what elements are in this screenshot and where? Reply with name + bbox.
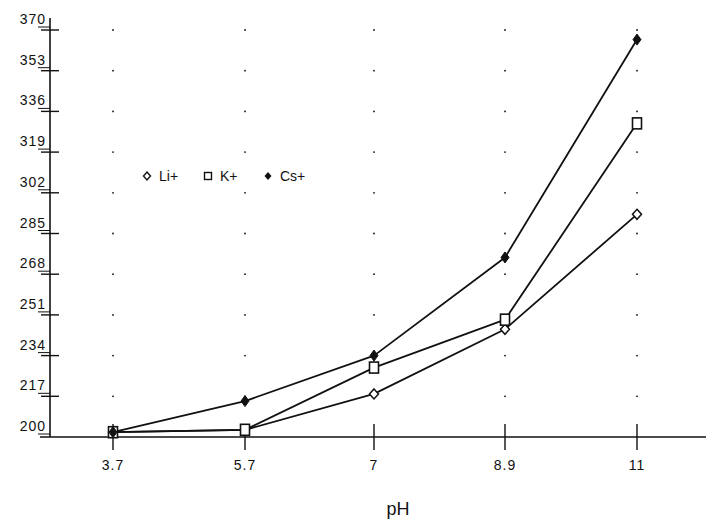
- grid-dot: [373, 151, 375, 153]
- grid-dot: [636, 111, 638, 113]
- legend-open-diamond-icon: [144, 172, 151, 180]
- grid-dot: [244, 355, 246, 357]
- grid-dot: [112, 111, 114, 113]
- legend-open-square-icon: [205, 173, 212, 180]
- grid-dot: [504, 111, 506, 113]
- grid-dot: [504, 192, 506, 194]
- y-tick-label: 268: [20, 255, 46, 271]
- grid-dot: [504, 151, 506, 153]
- grid-dot: [244, 273, 246, 275]
- y-tick-label: 319: [20, 133, 46, 149]
- grid-dot: [244, 151, 246, 153]
- marker-k-plus-icon: [241, 424, 250, 435]
- marker-k-plus-icon: [370, 362, 379, 373]
- grid-dot: [636, 192, 638, 194]
- grid-dots: [112, 29, 638, 397]
- y-tick-label: 302: [20, 174, 46, 190]
- grid-dot: [244, 29, 246, 31]
- grid-dot: [112, 29, 114, 31]
- y-tick-label: 336: [20, 92, 46, 108]
- y-tick-label: 200: [20, 418, 46, 434]
- legend-label: Li+: [159, 168, 178, 184]
- legend-item-cs-plus: Cs+: [265, 168, 306, 184]
- grid-dot: [112, 314, 114, 316]
- grid-dot: [636, 233, 638, 235]
- y-axis: 200217234251268285302319336353370: [20, 11, 59, 437]
- grid-dot: [636, 273, 638, 275]
- grid-dot: [244, 70, 246, 72]
- grid-dot: [373, 273, 375, 275]
- grid-dot: [244, 111, 246, 113]
- grid-dot: [112, 192, 114, 194]
- grid-dot: [373, 70, 375, 72]
- y-tick-label: 370: [20, 11, 46, 27]
- marker-cs-plus-icon: [370, 350, 378, 361]
- grid-dot: [636, 70, 638, 72]
- marker-k-plus-icon: [633, 118, 642, 129]
- y-tick-label: 285: [20, 215, 46, 231]
- grid-dot: [112, 233, 114, 235]
- grid-dot: [504, 29, 506, 31]
- x-tick-label: 11: [629, 457, 646, 473]
- grid-dot: [112, 273, 114, 275]
- y-tick-label: 251: [20, 296, 46, 312]
- x-axis-title: pH: [386, 499, 409, 519]
- x-tick-label: 7: [370, 457, 379, 473]
- legend: Li+K+Cs+: [144, 168, 306, 184]
- legend-label: Cs+: [280, 168, 305, 184]
- grid-dot: [373, 192, 375, 194]
- marker-li-plus-icon: [370, 389, 379, 399]
- grid-dot: [504, 70, 506, 72]
- grid-dot: [504, 395, 506, 397]
- y-tick-label: 353: [20, 52, 46, 68]
- x-tick-label: 5.7: [234, 457, 256, 473]
- y-tick-label: 234: [20, 337, 46, 353]
- grid-dot: [373, 314, 375, 316]
- grid-dot: [636, 395, 638, 397]
- legend-label: K+: [220, 168, 238, 184]
- line-chart: 200217234251268285302319336353370 3.75.7…: [0, 0, 711, 529]
- grid-dot: [373, 111, 375, 113]
- grid-dot: [112, 70, 114, 72]
- grid-dot: [244, 233, 246, 235]
- x-tick-label: 8.9: [494, 457, 516, 473]
- marker-k-plus-icon: [501, 314, 510, 325]
- grid-dot: [112, 151, 114, 153]
- marker-cs-plus-icon: [241, 396, 249, 407]
- legend-item-li-plus: Li+: [144, 168, 179, 184]
- grid-dot: [504, 355, 506, 357]
- grid-dot: [112, 355, 114, 357]
- x-tick-label: 3.7: [102, 457, 124, 473]
- grid-dot: [373, 233, 375, 235]
- grid-dot: [244, 314, 246, 316]
- grid-dot: [636, 314, 638, 316]
- grid-dot: [504, 233, 506, 235]
- grid-dot: [636, 29, 638, 31]
- y-tick-label: 217: [20, 377, 46, 393]
- legend-filled-diamond-icon: [265, 172, 272, 180]
- series-line-li-plus: [113, 214, 637, 432]
- legend-item-k-plus: K+: [205, 168, 238, 184]
- grid-dot: [636, 151, 638, 153]
- grid-dot: [244, 192, 246, 194]
- grid-dot: [112, 395, 114, 397]
- grid-dot: [373, 29, 375, 31]
- grid-dot: [504, 273, 506, 275]
- grid-dot: [636, 355, 638, 357]
